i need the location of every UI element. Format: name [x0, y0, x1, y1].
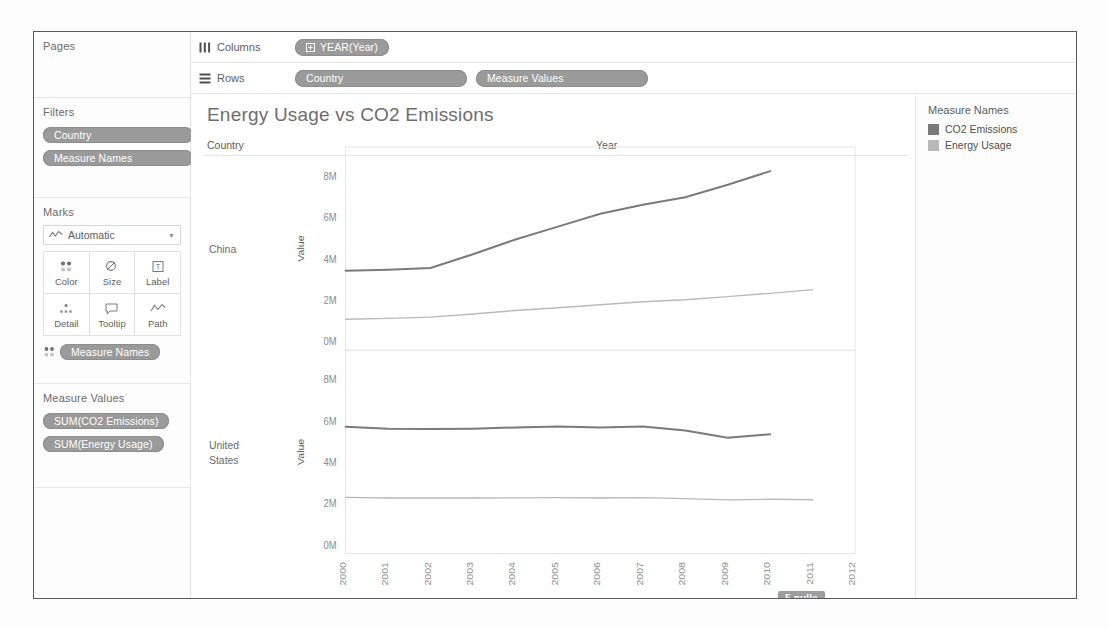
- worksheet-window: Pages Filters Country Measure Names Mark…: [33, 31, 1077, 599]
- filter-pill-country[interactable]: Country: [43, 127, 193, 143]
- svg-text:4M: 4M: [323, 457, 336, 468]
- marks-tooltip-button[interactable]: Tooltip: [90, 294, 136, 336]
- svg-text:China: China: [209, 243, 236, 255]
- rows-shelf-label: Rows: [217, 72, 245, 84]
- columns-shelf-label-group: Columns: [199, 41, 295, 53]
- marks-buttons-grid: Color Size: [43, 251, 181, 336]
- rows-pill-country[interactable]: Country: [295, 70, 467, 87]
- svg-text:8M: 8M: [323, 171, 336, 182]
- worksheet-main-area: Columns YEAR(Year): [191, 32, 1076, 598]
- color-dots-icon: [59, 258, 74, 274]
- tooltip-bubble-icon: [104, 300, 119, 316]
- legend-label-energy-usage: Energy Usage: [945, 139, 1012, 151]
- sidebar-empty-area: [34, 488, 190, 598]
- measure-pill-co2-emissions[interactable]: SUM(CO2 Emissions): [43, 413, 169, 429]
- svg-text:2004: 2004: [507, 562, 518, 586]
- svg-text:0M: 0M: [323, 539, 336, 550]
- svg-text:2012: 2012: [846, 562, 857, 586]
- columns-icon: [199, 42, 211, 53]
- legend-swatch-co2-emissions: [928, 124, 939, 135]
- measure-values-card: Measure Values SUM(CO2 Emissions) SUM(En…: [34, 384, 190, 488]
- legend-item-co2-emissions[interactable]: CO2 Emissions: [928, 123, 1066, 135]
- chart-viewport[interactable]: Energy Usage vs CO2 Emissions Country Ye…: [191, 94, 916, 598]
- marks-detail-button[interactable]: Detail: [44, 294, 90, 336]
- svg-text:0M: 0M: [323, 336, 336, 347]
- svg-text:6M: 6M: [323, 212, 336, 223]
- svg-text:2009: 2009: [719, 562, 730, 586]
- columns-pill-year[interactable]: YEAR(Year): [295, 39, 389, 56]
- svg-text:2011: 2011: [804, 562, 815, 585]
- color-dots-icon: [43, 346, 56, 358]
- svg-text:2006: 2006: [592, 562, 603, 586]
- svg-text:4M: 4M: [323, 253, 336, 264]
- mark-type-label: Automatic: [68, 229, 115, 241]
- rows-pill-measure-values[interactable]: Measure Values: [476, 70, 648, 87]
- svg-text:T: T: [155, 262, 160, 271]
- columns-pill-year-label: YEAR(Year): [320, 41, 378, 53]
- line-chart-svg: 0M2M4M6M8MValueChina0M2M4M6M8MValueUnite…: [191, 94, 915, 598]
- marks-detail-label: Detail: [54, 318, 78, 329]
- marks-label-label: Label: [146, 276, 169, 287]
- marks-encoding-row: Measure Names: [43, 344, 181, 360]
- rows-icon: [199, 73, 211, 84]
- measure-pill-energy-usage[interactable]: SUM(Energy Usage): [43, 436, 164, 452]
- pages-card[interactable]: Pages: [34, 32, 190, 98]
- filter-pill-measure-names[interactable]: Measure Names: [43, 150, 193, 166]
- marks-color-button[interactable]: Color: [44, 252, 90, 294]
- line-chart-icon: [49, 229, 63, 241]
- svg-text:8M: 8M: [323, 374, 336, 385]
- mark-type-dropdown[interactable]: Automatic ▼: [43, 225, 181, 245]
- svg-text:2M: 2M: [323, 498, 336, 509]
- size-circle-icon: [104, 258, 119, 274]
- nulls-badge[interactable]: 5 nulls: [778, 591, 825, 598]
- marks-label-button[interactable]: T Label: [135, 252, 181, 294]
- svg-text:2002: 2002: [422, 562, 433, 586]
- svg-text:2M: 2M: [323, 295, 336, 306]
- svg-text:2000: 2000: [337, 562, 348, 586]
- svg-text:2001: 2001: [379, 562, 390, 586]
- marks-path-label: Path: [148, 318, 168, 329]
- filters-card[interactable]: Filters Country Measure Names: [34, 98, 190, 198]
- detail-dots-icon: [58, 300, 74, 316]
- measure-values-card-title: Measure Values: [43, 392, 181, 404]
- marks-pill-measure-names[interactable]: Measure Names: [60, 344, 160, 360]
- legend-title: Measure Names: [928, 104, 1066, 116]
- rows-shelf-label-group: Rows: [199, 72, 295, 84]
- svg-text:2007: 2007: [634, 562, 645, 586]
- legend-pane: Measure Names CO2 Emissions Energy Usage: [916, 94, 1076, 598]
- marks-path-button[interactable]: Path: [135, 294, 181, 336]
- legend-swatch-energy-usage: [928, 140, 939, 151]
- columns-shelf[interactable]: Columns YEAR(Year): [191, 32, 1076, 63]
- svg-text:Value: Value: [295, 438, 306, 465]
- chevron-down-icon: ▼: [168, 232, 175, 239]
- svg-text:2008: 2008: [677, 562, 688, 586]
- measure-names-legend: Measure Names CO2 Emissions Energy Usage: [928, 104, 1066, 151]
- pages-card-title: Pages: [43, 40, 181, 52]
- svg-text:2010: 2010: [762, 562, 773, 586]
- worksheet-sidebar: Pages Filters Country Measure Names Mark…: [34, 32, 191, 598]
- svg-text:United: United: [209, 438, 239, 450]
- marks-size-label: Size: [103, 276, 121, 287]
- svg-text:States: States: [209, 453, 239, 465]
- marks-card: Marks Automatic ▼: [34, 198, 190, 384]
- filters-card-title: Filters: [43, 106, 181, 118]
- marks-tooltip-label: Tooltip: [98, 318, 125, 329]
- path-line-icon: [150, 300, 166, 316]
- legend-label-co2-emissions: CO2 Emissions: [945, 123, 1017, 135]
- columns-shelf-label: Columns: [217, 41, 260, 53]
- svg-text:6M: 6M: [323, 415, 336, 426]
- legend-item-energy-usage[interactable]: Energy Usage: [928, 139, 1066, 151]
- svg-text:Value: Value: [295, 235, 306, 262]
- marks-color-label: Color: [55, 276, 78, 287]
- marks-size-button[interactable]: Size: [90, 252, 136, 294]
- tableau-worksheet-screenshot: Pages Filters Country Measure Names Mark…: [0, 0, 1109, 629]
- marks-card-title: Marks: [43, 206, 181, 218]
- plus-box-icon: [306, 43, 315, 52]
- rows-shelf[interactable]: Rows Country Measure Values: [191, 63, 1076, 94]
- svg-text:2005: 2005: [549, 562, 560, 586]
- label-text-icon: T: [151, 258, 165, 274]
- svg-text:2003: 2003: [464, 562, 475, 586]
- view-and-legend-row: Energy Usage vs CO2 Emissions Country Ye…: [191, 94, 1076, 598]
